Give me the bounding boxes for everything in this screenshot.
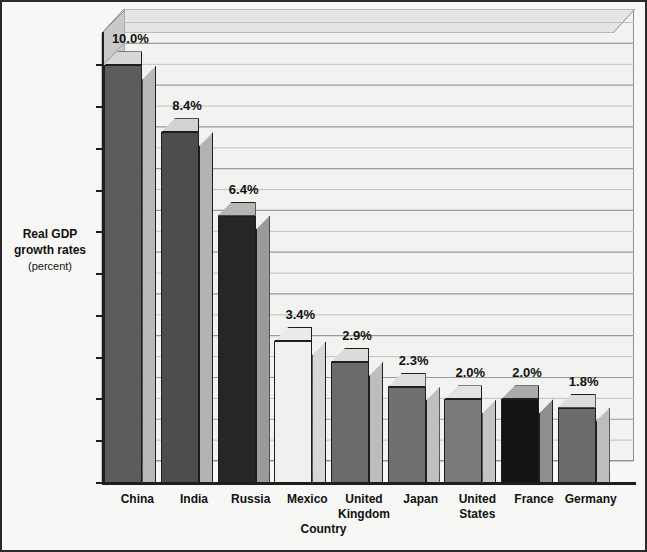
bar-side-face [482,399,496,483]
bar[interactable] [388,387,426,483]
chart-frame: Real GDP growth rates (percent) 01234567… [0,0,647,552]
y-axis-label-text: Real GDP growth rates [10,226,90,258]
bar-side-face [142,65,156,483]
bar[interactable] [161,132,199,483]
x-axis-category-label: Mexico [276,492,339,507]
x-axis-category-label: Germany [559,492,622,507]
bar[interactable] [218,216,256,483]
bar-data-label: 6.4% [229,182,259,197]
bar[interactable] [274,341,312,483]
bar[interactable] [558,408,596,483]
bar-data-label: 2.3% [399,353,429,368]
bar[interactable] [444,399,482,483]
bar-data-label: 3.4% [286,307,316,322]
plot-area: 012345678910 10.0%8.4%6.4%3.4%2.9%2.3%2.… [102,32,612,483]
bar-front-face [161,132,199,483]
bar-front-face [501,399,539,483]
y-axis-label: Real GDP growth rates (percent) [10,226,90,274]
bar-data-label: 10.0% [112,31,149,46]
bar-side-face [199,132,213,483]
bar-data-label: 2.0% [512,365,542,380]
bar-front-face [274,341,312,483]
bar-front-face [218,216,256,483]
bar[interactable] [331,362,369,483]
bar-front-face [331,362,369,483]
bar[interactable] [501,399,539,483]
x-axis-category-label: Japan [389,492,452,507]
x-axis-category-label: India [163,492,226,507]
bar-front-face [444,399,482,483]
bar-front-face [104,65,142,483]
x-axis-category-label: France [503,492,566,507]
bar-side-face [256,216,270,483]
y-axis-label-unit: (percent) [10,258,90,274]
bar-data-label: 2.9% [342,328,372,343]
x-axis-label: Country [2,522,645,536]
bar-data-label: 8.4% [172,98,202,113]
bar-side-face [426,387,440,483]
x-axis-category-label: United States [446,492,509,522]
bar-side-face [312,341,326,483]
bar-side-face [369,362,383,483]
x-axis-category-label: United Kingdom [333,492,396,522]
bar-side-face [539,399,553,483]
bar-front-face [558,408,596,483]
x-axis-category-label: Russia [219,492,282,507]
bar[interactable] [104,65,142,483]
x-axis-category-label: China [106,492,169,507]
bar-data-label: 1.8% [569,374,599,389]
bar-data-label: 2.0% [456,365,486,380]
bar-front-face [388,387,426,483]
